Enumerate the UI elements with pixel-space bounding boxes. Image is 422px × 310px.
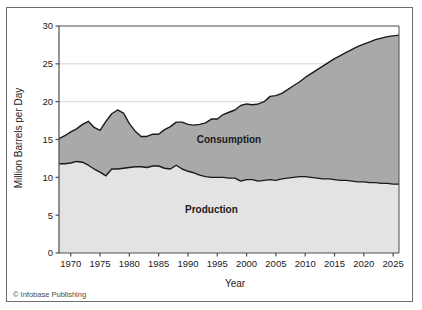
y-tick-label-25: 25 [42, 58, 53, 69]
x-tick-label-1980: 1980 [119, 258, 140, 269]
y-tick-label-10: 10 [42, 172, 53, 183]
x-tick-label-1995: 1995 [207, 258, 228, 269]
oil-production-consumption-area-chart: 1970197519801985199019952000200520102015… [7, 8, 412, 301]
chart-frame: 1970197519801985199019952000200520102015… [6, 7, 413, 302]
x-tick-label-1985: 1985 [148, 258, 169, 269]
y-tick-label-5: 5 [48, 210, 53, 221]
y-axis-title: Million Barrels per Day [13, 88, 24, 189]
x-tick-label-2010: 2010 [295, 258, 316, 269]
x-tick-label-2000: 2000 [236, 258, 257, 269]
annotation-production: Production [185, 204, 238, 215]
y-tick-label-30: 30 [42, 20, 53, 31]
y-tick-label-20: 20 [42, 96, 53, 107]
x-tick-label-2020: 2020 [353, 258, 374, 269]
credit-line: © Infobase Publishing [13, 290, 86, 299]
x-tick-label-2005: 2005 [265, 258, 286, 269]
x-tick-label-1975: 1975 [89, 258, 110, 269]
annotation-consumption: Consumption [197, 134, 261, 145]
figure: 1970197519801985199019952000200520102015… [0, 0, 422, 310]
x-axis-title: Year [225, 278, 246, 289]
x-tick-label-1990: 1990 [177, 258, 198, 269]
x-tick-label-2025: 2025 [383, 258, 404, 269]
y-tick-label-0: 0 [48, 247, 53, 258]
x-tick-label-1970: 1970 [60, 258, 81, 269]
x-tick-label-2015: 2015 [324, 258, 345, 269]
y-tick-label-15: 15 [42, 134, 53, 145]
